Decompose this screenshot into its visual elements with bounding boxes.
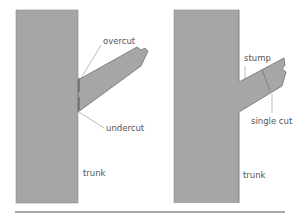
undercut-label: undercut	[106, 123, 145, 133]
pruning-diagram: overcut undercut trunk stump single cut …	[0, 0, 300, 219]
stump-label: stump	[244, 53, 271, 63]
right-trunk-label: trunk	[243, 170, 266, 180]
overcut-label: overcut	[103, 36, 136, 46]
right-diagram: stump single cut trunk	[174, 10, 293, 203]
left-diagram: overcut undercut trunk	[16, 10, 148, 203]
left-branch	[78, 47, 148, 112]
undercut-leader	[79, 112, 104, 128]
single-cut-label: single cut	[251, 116, 293, 126]
left-trunk	[16, 10, 78, 203]
left-trunk-label: trunk	[83, 168, 106, 178]
right-trunk	[174, 10, 286, 203]
